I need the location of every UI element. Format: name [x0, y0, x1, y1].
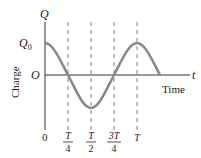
time-label: Time	[162, 83, 185, 95]
charge-vs-time-diagram: Q t Q0 O Charge Time 0 T 4 T 2 3T 4 T	[0, 0, 201, 158]
origin-label: O	[31, 68, 40, 82]
quantity-label: Charge	[9, 66, 21, 98]
svg-text:4: 4	[66, 143, 71, 154]
svg-text:4: 4	[112, 143, 117, 154]
svg-text:T: T	[65, 130, 72, 141]
svg-text:3T: 3T	[108, 130, 121, 141]
tick-half: T 2	[86, 130, 96, 154]
svg-text:2: 2	[89, 143, 94, 154]
tick-zero: 0	[42, 131, 48, 143]
y-axis-label: Q	[40, 7, 49, 21]
svg-text:T: T	[88, 130, 95, 141]
dashed-guides	[68, 22, 137, 130]
amplitude-label: Q0	[19, 36, 32, 52]
tick-quarter: T 4	[63, 130, 73, 154]
x-axis-label: t	[192, 68, 196, 82]
tick-period: T	[134, 132, 141, 143]
svg-text:T: T	[134, 132, 141, 143]
tick-three-quarter: 3T 4	[107, 130, 121, 154]
